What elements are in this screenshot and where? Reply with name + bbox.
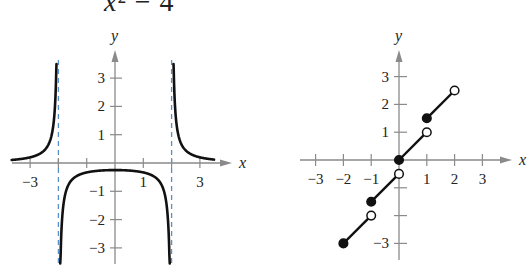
closed-endpoint-icon	[367, 197, 376, 206]
x-tick-label: 3	[479, 171, 487, 187]
x-axis-arrow-icon	[500, 157, 512, 164]
segment-line	[343, 216, 371, 244]
open-endpoint-icon	[395, 170, 404, 179]
segment-line	[427, 91, 455, 119]
open-endpoint-icon	[367, 211, 376, 220]
tick-labels: xy−3−2−1123321−3	[308, 27, 526, 251]
axes	[300, 50, 512, 260]
x-tick-label: −1	[363, 171, 379, 187]
y-axis-label: y	[393, 27, 403, 45]
y-tick-label: 3	[382, 69, 390, 85]
x-tick-label: 1	[423, 171, 431, 187]
closed-endpoint-icon	[423, 114, 432, 123]
x-axis-label: x	[518, 151, 526, 168]
y-tick-label: 1	[382, 124, 390, 140]
y-axis-arrow-icon	[396, 50, 403, 62]
y-tick-label: −3	[373, 235, 389, 251]
x-tick-label: 2	[451, 171, 459, 187]
y-tick-label: 2	[382, 96, 390, 112]
open-endpoint-icon	[450, 86, 459, 95]
open-endpoint-icon	[423, 128, 432, 137]
x-tick-label: −2	[335, 171, 351, 187]
piecewise-step-graph: xy−3−2−1123321−3	[0, 0, 532, 278]
closed-endpoint-icon	[395, 156, 404, 165]
segment-line	[399, 132, 427, 160]
x-tick-label: −3	[308, 171, 324, 187]
closed-endpoint-icon	[339, 239, 348, 248]
